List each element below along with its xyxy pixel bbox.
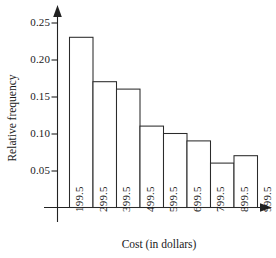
x-tick-label-499.5: 499.5 — [145, 186, 156, 212]
y-axis-title: Relative frequency — [6, 74, 18, 161]
x-tick-label-999.5: 999.5 — [262, 186, 273, 212]
x-tick-label-899.5: 899.5 — [239, 186, 250, 212]
y-axis-arrow-icon — [53, 5, 62, 17]
y-axis-ticks — [52, 23, 58, 171]
x-tick-label-699.5: 699.5 — [192, 186, 203, 212]
y-tick-label-0.05: 0.05 — [30, 165, 50, 176]
x-tick-label-199.5: 199.5 — [74, 186, 85, 212]
x-tick-label-399.5: 399.5 — [121, 186, 132, 212]
x-axis-title: Cost (in dollars) — [0, 238, 276, 251]
x-tick-label-299.5: 299.5 — [98, 186, 109, 212]
x-tick-label-599.5: 599.5 — [168, 186, 179, 212]
y-tick-label-0.25: 0.25 — [30, 17, 50, 28]
y-tick-label-0.15: 0.15 — [30, 91, 50, 102]
bar-199.5-299.5 — [70, 37, 94, 207]
x-tick-label-799.5: 799.5 — [215, 186, 226, 212]
histogram-bars — [70, 37, 258, 207]
relative-frequency-histogram: 0.25 0.20 0.15 0.10 0.05 199.5 299.5 399… — [0, 0, 276, 258]
y-tick-label-0.20: 0.20 — [30, 54, 50, 65]
y-tick-label-0.10: 0.10 — [30, 128, 50, 139]
